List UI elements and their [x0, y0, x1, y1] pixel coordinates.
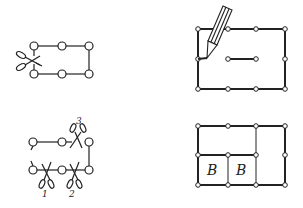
cut-label-3: 3	[76, 116, 82, 126]
panel-multi-cut	[29, 123, 93, 189]
node	[85, 42, 93, 50]
block-label-2: B	[235, 162, 246, 178]
scissors-icon	[15, 50, 42, 71]
panel-cut-loop	[15, 42, 93, 78]
node	[58, 70, 66, 78]
node	[30, 42, 38, 50]
cut-label-1: 1	[42, 189, 48, 199]
panel-draw-rectangle	[196, 6, 288, 91]
cut-label-2: 2	[68, 189, 75, 199]
node	[85, 70, 93, 78]
node	[58, 42, 66, 50]
diagram-canvas: 3 1 2 B B	[0, 0, 303, 208]
scissors-icon-1	[38, 162, 55, 189]
pencil-icon	[198, 6, 232, 59]
block-label-1: B	[206, 162, 217, 178]
scissors-icon-2	[66, 162, 83, 189]
node	[30, 70, 38, 78]
scissors-icon-3	[69, 123, 87, 148]
